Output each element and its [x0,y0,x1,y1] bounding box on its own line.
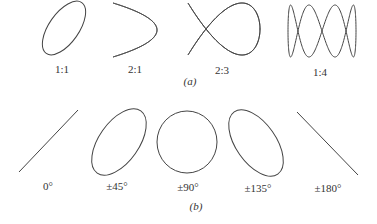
label-2-3: 2:3 [215,64,229,76]
figure-2-3 [188,3,260,55]
caption-a: (a) [184,75,197,87]
figure-1-1 [34,0,94,62]
figure-135-deg [218,100,294,185]
figure-90-deg [157,111,217,173]
figure-180-deg [297,112,358,175]
figure-2-1 [113,3,157,57]
figure-45-deg [81,99,157,184]
figure-1-4 [288,5,356,57]
label-45-deg: ±45° [106,180,127,192]
label-1-1: 1:1 [55,63,69,75]
label-0-deg: 0° [43,180,53,192]
caption-b: (b) [190,200,203,212]
label-1-4: 1:4 [313,66,327,78]
label-135-deg: ±135° [245,182,272,194]
label-90-deg: ±90° [177,181,198,193]
label-180-deg: ±180° [315,182,342,194]
figure-0-deg [19,110,78,172]
label-2-1: 2:1 [128,63,142,75]
